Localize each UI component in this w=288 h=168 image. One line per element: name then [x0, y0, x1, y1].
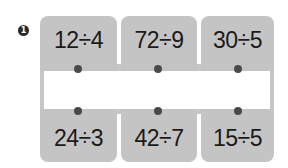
expression-text: 72÷9 — [135, 27, 184, 54]
top-connect-dot-3[interactable] — [234, 65, 242, 73]
bottom-connect-dot-2[interactable] — [154, 107, 162, 115]
top-connect-dot-2[interactable] — [154, 65, 162, 73]
bottom-connect-dot-3[interactable] — [234, 107, 242, 115]
bottom-card-1: 24÷3 — [40, 109, 117, 162]
top-card-2: 72÷9 — [121, 16, 197, 71]
expression-text: 15÷5 — [213, 125, 262, 152]
top-card-3: 30÷5 — [201, 16, 274, 71]
expression-text: 24÷3 — [54, 125, 103, 152]
bottom-card-2: 42÷7 — [121, 109, 197, 162]
bottom-connect-dot-1[interactable] — [74, 107, 82, 115]
top-connect-dot-1[interactable] — [74, 65, 82, 73]
problem-number-marker: 1 — [18, 25, 29, 36]
top-card-1: 12÷4 — [40, 16, 117, 71]
expression-text: 42÷7 — [135, 125, 184, 152]
problem-number: 1 — [21, 26, 27, 35]
bottom-card-3: 15÷5 — [201, 109, 274, 162]
expression-text: 30÷5 — [213, 27, 262, 54]
matching-area[interactable] — [44, 71, 270, 109]
expression-text: 12÷4 — [54, 27, 103, 54]
